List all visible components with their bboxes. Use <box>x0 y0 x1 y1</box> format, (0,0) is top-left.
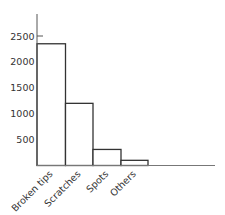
bar-others <box>121 160 148 165</box>
bar-broken-tips <box>37 44 66 166</box>
y-tick-label: 1000 <box>10 108 34 119</box>
bar-scratches <box>66 103 94 165</box>
bars <box>37 44 148 166</box>
y-tick-label: 1500 <box>10 82 34 93</box>
x-axis-labels: Broken tipsScratchesSpotsOthers <box>9 168 138 214</box>
pareto-bar-chart: 5001000150020002500 Broken tipsScratches… <box>0 0 225 215</box>
y-tick-label: 2500 <box>10 31 34 42</box>
y-tick-label: 500 <box>16 134 34 145</box>
y-tick-label: 2000 <box>10 56 34 67</box>
x-category-label: Others <box>108 168 138 198</box>
bar-spots <box>93 149 121 165</box>
